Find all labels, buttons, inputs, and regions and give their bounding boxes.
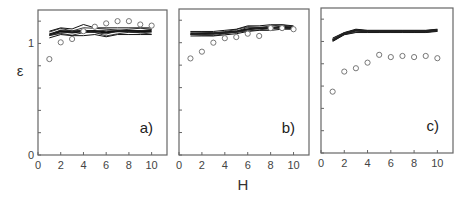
data-point: [291, 27, 296, 32]
data-point: [149, 23, 154, 28]
x-tick-label: 2: [199, 159, 205, 171]
x-tick-label: 2: [341, 157, 347, 169]
y-axis-label: ε: [17, 62, 24, 79]
data-point: [222, 36, 227, 41]
y-tick-label: 0: [28, 149, 34, 161]
data-point: [377, 52, 382, 57]
data-point: [257, 33, 262, 38]
data-point: [279, 25, 284, 30]
panel-label: c): [427, 117, 440, 134]
x-tick-label: 0: [318, 157, 324, 169]
data-point: [234, 34, 239, 39]
x-tick-label: 8: [126, 159, 132, 171]
data-point: [423, 53, 428, 58]
data-point: [388, 54, 393, 59]
x-tick-label: 10: [146, 159, 158, 171]
panel-b: 0246810b): [176, 9, 309, 171]
data-point: [92, 24, 97, 29]
data-point: [268, 25, 273, 30]
x-tick-label: 8: [411, 157, 417, 169]
data-point: [188, 56, 193, 61]
x-axis-label: H: [238, 176, 249, 193]
data-point: [69, 36, 74, 41]
x-tick-label: 0: [35, 159, 41, 171]
x-tick-label: 2: [58, 159, 64, 171]
data-point: [126, 19, 131, 24]
data-point: [342, 69, 347, 74]
data-point: [58, 40, 63, 45]
data-point: [330, 89, 335, 94]
data-point: [435, 56, 440, 61]
x-tick-label: 6: [388, 157, 394, 169]
data-point: [211, 40, 216, 45]
x-tick-label: 8: [268, 159, 274, 171]
x-tick-label: 0: [176, 159, 182, 171]
x-tick-label: 10: [431, 157, 443, 169]
simulation-line: [49, 35, 151, 38]
data-point: [199, 49, 204, 54]
x-tick-label: 4: [364, 157, 370, 169]
figure: 024681001a)0246810b)0246810c)εH: [0, 0, 467, 198]
data-point: [411, 54, 416, 59]
data-point: [47, 56, 52, 61]
x-tick-label: 6: [245, 159, 251, 171]
panel-c: 0246810c): [318, 8, 453, 169]
data-point: [115, 19, 120, 24]
panel-label: b): [282, 119, 295, 136]
data-point: [104, 21, 109, 26]
data-point: [81, 29, 86, 34]
x-tick-label: 4: [222, 159, 228, 171]
panel-a: 024681001a): [28, 10, 167, 171]
x-tick-label: 6: [103, 159, 109, 171]
panel-label: a): [140, 119, 153, 136]
data-point: [365, 60, 370, 65]
x-tick-label: 10: [287, 159, 299, 171]
y-tick-label: 1: [28, 37, 34, 49]
data-point: [138, 22, 143, 27]
data-point: [400, 53, 405, 58]
data-point: [353, 66, 358, 71]
data-point: [245, 31, 250, 36]
x-tick-label: 4: [80, 159, 86, 171]
